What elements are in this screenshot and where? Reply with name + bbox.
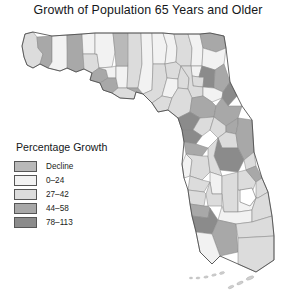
- legend-label-0-24: 0–24: [46, 176, 64, 185]
- legend-swatch-27-42: [14, 189, 37, 200]
- legend-item-27-42[interactable]: 27–42: [14, 188, 146, 201]
- legend-swatch-decline: [14, 161, 37, 172]
- county-bradford[interactable]: [192, 76, 204, 87]
- legend-label-27-42: 27–42: [46, 190, 69, 199]
- legend-swatch-0-24: [14, 175, 37, 186]
- legend-label-decline: Decline: [46, 162, 73, 171]
- county-sarasota[interactable]: [188, 190, 206, 206]
- county-hardee[interactable]: [210, 172, 222, 194]
- legend-swatch-78-113: [14, 217, 37, 228]
- page-title: Growth of Population 65 Years and Older: [0, 3, 296, 17]
- county-jackson[interactable]: [95, 33, 115, 68]
- legend-item-78-113[interactable]: 78–113: [14, 216, 146, 229]
- legend-item-decline[interactable]: Decline: [14, 160, 146, 173]
- county-walton[interactable]: [67, 34, 84, 72]
- florida-keys: [189, 271, 254, 289]
- legend-swatch-44-58: [14, 203, 37, 214]
- map-legend: Percentage Growth Decline 0–24 27–42 44–…: [14, 141, 146, 230]
- legend-label-78-113: 78–113: [46, 218, 73, 227]
- legend-title: Percentage Growth: [16, 141, 146, 153]
- legend-item-44-58[interactable]: 44–58: [14, 202, 146, 215]
- county-highlands[interactable]: [222, 172, 238, 212]
- legend-label-44-58: 44–58: [46, 204, 69, 213]
- county-holmes[interactable]: [82, 33, 95, 54]
- legend-item-0-24[interactable]: 0–24: [14, 174, 146, 187]
- county-liberty[interactable]: [116, 66, 128, 88]
- county-gadsden[interactable]: [113, 33, 130, 66]
- figure: Growth of Population 65 Years and Older: [0, 0, 296, 290]
- county-pasco[interactable]: [184, 142, 208, 156]
